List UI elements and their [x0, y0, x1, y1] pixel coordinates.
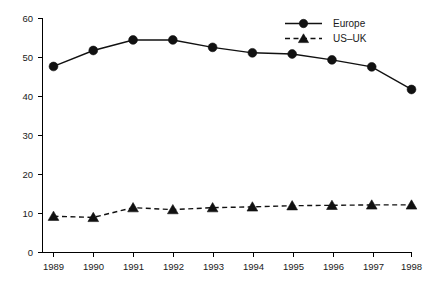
y-tick-marks: [38, 19, 43, 253]
legend-item-europe[interactable]: Europe: [285, 18, 366, 29]
x-tick-label-1996: 1996: [323, 261, 344, 272]
series-europe: [49, 36, 416, 94]
y-tick-label-50: 50: [22, 52, 33, 63]
europe-point-1990: [89, 46, 98, 55]
x-tick-label-1993: 1993: [203, 261, 224, 272]
axis-group: [43, 18, 413, 253]
legend-circle-icon: [299, 19, 307, 27]
europe-point-1989: [49, 62, 58, 71]
legend-item-usuk[interactable]: US–UK: [285, 33, 367, 44]
chart-legend: Europe US–UK: [285, 18, 367, 44]
x-tick-label-1995: 1995: [283, 261, 304, 272]
x-tick-label-1990: 1990: [83, 261, 104, 272]
europe-point-1996: [328, 55, 337, 64]
y-tick-labels: 60 50 40 30 20 10 0: [22, 13, 33, 258]
y-tick-label-10: 10: [22, 208, 33, 219]
x-tick-label-1998: 1998: [401, 261, 422, 272]
y-tick-label-0: 0: [28, 247, 33, 258]
chart-canvas: 60 50 40 30 20 10 0 1989 1990 1991 199: [0, 0, 429, 281]
usuk-point-1998: [406, 200, 417, 209]
europe-point-1997: [367, 62, 376, 71]
usuk-markers: [48, 200, 417, 222]
europe-line: [54, 40, 412, 90]
europe-point-1995: [288, 50, 297, 59]
usuk-point-1992: [167, 205, 178, 214]
x-tick-label-1992: 1992: [163, 261, 184, 272]
europe-point-1993: [208, 43, 217, 52]
series-usuk: [48, 200, 417, 222]
usuk-point-1995: [287, 201, 298, 210]
x-tick-label-1994: 1994: [243, 261, 264, 272]
usuk-point-1991: [128, 203, 139, 212]
usuk-line: [54, 205, 412, 217]
europe-point-1991: [129, 36, 138, 45]
legend-label-europe: Europe: [333, 18, 366, 29]
x-tick-marks: [54, 253, 412, 258]
europe-point-1998: [407, 85, 416, 94]
line-chart: 60 50 40 30 20 10 0 1989 1990 1991 199: [0, 0, 429, 281]
y-tick-label-30: 30: [22, 130, 33, 141]
europe-point-1994: [248, 48, 257, 57]
y-tick-label-60: 60: [22, 13, 33, 24]
legend-label-usuk: US–UK: [333, 33, 367, 44]
y-tick-label-40: 40: [22, 91, 33, 102]
x-tick-label-1991: 1991: [123, 261, 144, 272]
legend-triangle-icon: [298, 34, 308, 43]
x-tick-label-1997: 1997: [363, 261, 384, 272]
y-tick-label-20: 20: [22, 169, 33, 180]
x-tick-labels: 1989 1990 1991 1992 1993 1994 1995 1996 …: [43, 261, 422, 272]
x-tick-label-1989: 1989: [43, 261, 64, 272]
europe-point-1992: [168, 36, 177, 45]
